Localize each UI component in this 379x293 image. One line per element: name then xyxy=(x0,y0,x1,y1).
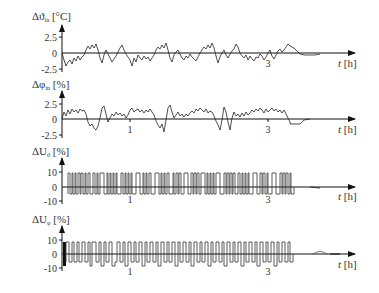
y-tick-label: 0 xyxy=(52,182,57,193)
x-tick-label: 3 xyxy=(266,58,271,69)
y-tick-label: 10 xyxy=(47,235,57,246)
series-line xyxy=(62,43,320,66)
y-tick-label: 0 xyxy=(52,48,57,59)
x-tick-label: 1 xyxy=(128,194,133,205)
y-tick-label: 2.5 xyxy=(45,32,58,43)
chart-figure: Δϑin [°C] 2.5 0 -2.5 3 t [h] ​Δφin [%] 2… xyxy=(0,0,379,293)
y-axis-label: ​Δφin [%] xyxy=(32,78,69,91)
x-tick-label: 1 xyxy=(128,124,133,135)
x-axis-label: t [h] xyxy=(338,190,357,202)
y-tick-label: 2.5 xyxy=(45,99,58,110)
y-tick-label: 0 xyxy=(52,114,57,125)
y-tick-label: -10 xyxy=(44,263,57,274)
y-tick-label: -2.5 xyxy=(41,64,57,75)
y-tick-label: 0 xyxy=(52,249,57,260)
y-tick-label: -10 xyxy=(44,196,57,207)
x-axis-label: t [h] xyxy=(338,57,357,69)
panel-voltage-humidity: ΔUφ [%] 10 0 -10 1 3 t [h] xyxy=(32,213,357,277)
panel-humidity: ​Δφin [%] 2.5 0 -2.5 1 3 t [h] xyxy=(32,78,357,141)
y-axis-label: Δϑin [°C] xyxy=(32,10,71,23)
y-axis-label: ΔUφ [%] xyxy=(32,213,70,226)
x-tick-label: 1 xyxy=(128,266,133,277)
x-tick-label: 3 xyxy=(266,266,271,277)
x-axis-label: t [h] xyxy=(338,123,357,135)
y-tick-label: -2.5 xyxy=(41,130,57,141)
panel-voltage-temp: ΔUϑ [%] 10 0 -10 1 3 t [h] xyxy=(32,145,357,207)
x-axis-label: t [h] xyxy=(338,258,357,270)
x-tick-label: 3 xyxy=(266,124,271,135)
y-axis-label: ΔUϑ [%] xyxy=(32,145,69,158)
x-tick-label: 3 xyxy=(266,194,271,205)
panel-temperature: Δϑin [°C] 2.5 0 -2.5 3 t [h] xyxy=(32,10,357,75)
series-square-wave xyxy=(68,173,294,194)
y-tick-label: 10 xyxy=(47,167,57,178)
